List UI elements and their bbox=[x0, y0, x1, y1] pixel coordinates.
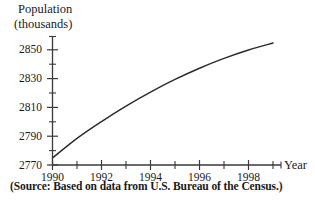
y-tick-label-2830: 2830 bbox=[8, 73, 42, 85]
y-tick-label-2770: 2770 bbox=[8, 160, 42, 172]
chart-plot-area bbox=[0, 0, 315, 200]
population-curve bbox=[53, 43, 274, 158]
y-tick-label-2790: 2790 bbox=[8, 131, 42, 143]
x-axis-title: Year bbox=[284, 158, 307, 173]
population-growth-figure: Population (thousands) bbox=[0, 0, 315, 200]
y-tick-label-2810: 2810 bbox=[8, 102, 42, 114]
y-tick-label-2850: 2850 bbox=[8, 44, 42, 56]
source-note: (Source: Based on data from U.S. Bureau … bbox=[10, 180, 282, 192]
